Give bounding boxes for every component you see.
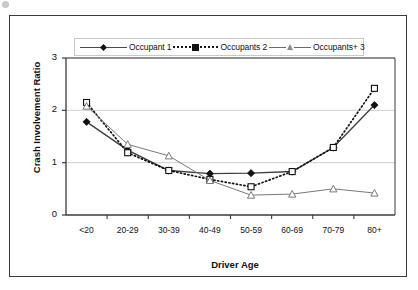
legend-entry-occupants-3[interactable]: Occupants+ 3 [269,42,367,52]
y-tick-label: 3 [41,51,57,62]
x-tick-label: 30-39 [147,225,191,235]
chart-legend: Occupant 1 Occupants 2 Occupants+ 3 [74,38,364,56]
legend-entry-occupant-1[interactable]: Occupant 1 [80,42,173,52]
legend-label-occupant-1: Occupant 1 [129,42,171,52]
x-tick-label: 70-79 [311,225,355,235]
legend-square-marker-icon [192,44,199,51]
y-tick-label: 0 [41,208,57,219]
x-tick-label: 50-59 [229,225,273,235]
x-tick-label: 80+ [352,225,396,235]
y-axis-title: Crash Involvement Ratio [31,48,42,188]
legend-line-solid-icon [107,47,127,48]
legend-label-occupants-3: Occupants+ 3 [313,42,365,52]
x-tick-label: 60-69 [270,225,314,235]
legend-line-solid-icon [80,47,100,48]
chart-figure: Occupant 1 Occupants 2 Occupants+ 3 Cras… [0,0,418,290]
legend-line-thin-icon [294,47,311,48]
x-tick-label: 20-29 [106,225,150,235]
legend-line-dotted-icon [173,46,191,48]
x-tick-label: 40-49 [188,225,232,235]
legend-line-thin-icon [269,47,286,48]
chart-frame: Occupant 1 Occupants 2 Occupants+ 3 Cras… [9,15,407,277]
legend-entry-occupants-2[interactable]: Occupants 2 [173,42,269,52]
scan-artifact [2,1,9,8]
x-tick-label: <20 [65,225,109,235]
legend-triangle-marker-icon [287,44,293,50]
legend-diamond-marker-icon [100,43,107,50]
y-tick-label: 1 [41,156,57,167]
legend-label-occupants-2: Occupants 2 [220,42,267,52]
y-tick-label: 2 [41,103,57,114]
x-axis-title: Driver Age [70,259,400,270]
legend-line-dotted-icon [200,46,218,48]
